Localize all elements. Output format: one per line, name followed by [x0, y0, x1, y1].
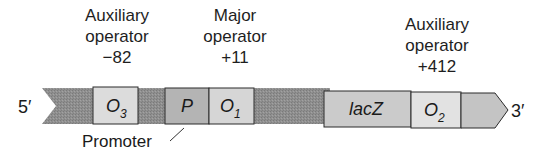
operator-o3-subscript: 3: [120, 107, 127, 121]
lacz-gene-label: lacZ: [349, 99, 384, 119]
promoter-label: Promoter: [82, 132, 152, 151]
promoter-p-box: P: [165, 88, 209, 124]
five-prime-label: 5′: [18, 97, 32, 117]
operon-diagram: 5′ O 3 P O 1 lacZ O 2 3′ Promoter: [0, 0, 547, 157]
lacz-gene-box: lacZ: [324, 91, 411, 127]
operator-o3-box: O 3: [93, 87, 138, 124]
promoter-p-letter: P: [181, 96, 193, 116]
operator-o2-subscript: 2: [437, 111, 445, 125]
operator-o1-box: O 1: [209, 88, 254, 124]
operator-o3-letter: O: [106, 96, 120, 116]
promoter-pointer-line: [170, 128, 184, 141]
operator-o2-letter: O: [424, 100, 438, 120]
arrow-tip-3prime: [461, 93, 508, 128]
three-prime-label: 3′: [511, 101, 525, 121]
operator-o1-subscript: 1: [234, 107, 241, 121]
operator-o1-letter: O: [220, 96, 234, 116]
operator-o2-box: O 2: [411, 92, 461, 128]
